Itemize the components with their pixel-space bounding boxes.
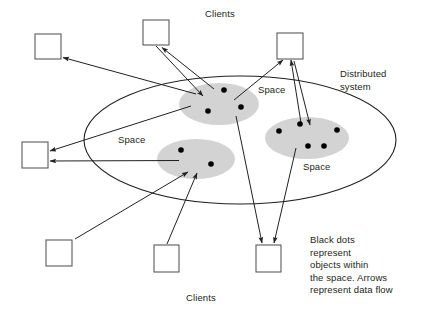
- client-top-middle: [143, 20, 169, 45]
- label-space-top: Space: [258, 84, 285, 97]
- object-dot: [238, 104, 244, 110]
- label-distributed-system: Distributed system: [340, 68, 387, 93]
- arrow-client-top-middle-to-space-top: [156, 46, 203, 96]
- arrow-client-bottom-mid-to-space-left: [167, 173, 197, 244]
- client-bottom-mid: [154, 245, 179, 272]
- figure-canvas: Clients Clients Space Space Space Distri…: [0, 0, 422, 319]
- arrow-space-right-to-client-bottom-right: [274, 148, 296, 243]
- client-top-left: [35, 34, 61, 59]
- object-dot: [297, 121, 303, 127]
- client-top-right: [277, 33, 303, 59]
- object-dot: [221, 87, 227, 93]
- object-dot: [276, 128, 282, 134]
- object-dot: [334, 127, 340, 133]
- arrow-space-left-to-client-middle-left: [50, 161, 179, 162]
- label-clients-top: Clients: [205, 8, 235, 21]
- space-right-ellipse: [265, 117, 349, 159]
- label-space-left: Space: [118, 134, 145, 147]
- legend-caption: Black dots represent objects within the …: [310, 234, 393, 297]
- client-middle-left: [22, 142, 48, 168]
- object-dot: [208, 161, 214, 167]
- space-left-ellipse: [157, 139, 235, 179]
- object-dot: [178, 147, 184, 153]
- arrow-space-top-to-client-bottom-right: [236, 116, 262, 243]
- label-space-right: Space: [303, 161, 330, 174]
- object-dot: [205, 108, 211, 114]
- object-dot: [321, 143, 327, 149]
- label-clients-bottom: Clients: [186, 292, 216, 305]
- arrow-client-bottom-left-to-space-left: [75, 172, 188, 239]
- client-bottom-right: [256, 245, 281, 272]
- object-dot: [305, 143, 311, 149]
- arrow-space-top-to-client-top-left: [63, 58, 196, 95]
- client-bottom-left: [46, 240, 72, 266]
